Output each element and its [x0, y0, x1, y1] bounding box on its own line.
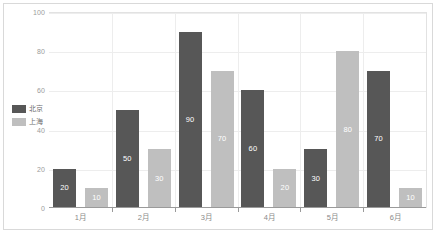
bar[interactable]: 70: [211, 71, 234, 208]
x-axis-tick-label: 5月: [301, 211, 364, 225]
bars-layer: 201050309070602030807010: [49, 13, 426, 208]
bar-group: 7010: [363, 13, 426, 208]
x-axis-tick-label: 4月: [238, 211, 301, 225]
bar[interactable]: 30: [304, 149, 327, 208]
chart-legend: 北京上海: [12, 104, 48, 130]
bar-value-label: 50: [123, 155, 132, 163]
bar[interactable]: 10: [399, 188, 422, 208]
bar-value-label: 30: [155, 175, 164, 183]
bar-value-label: 80: [343, 126, 352, 134]
bar-value-label: 10: [92, 194, 101, 202]
x-axis-tick-label: 1月: [49, 211, 112, 225]
y-axis-tick-label: 100: [7, 9, 45, 16]
bar-value-label: 70: [374, 136, 383, 144]
y-axis-tick-label: 80: [7, 48, 45, 55]
x-axis-tick-label: 3月: [175, 211, 238, 225]
bar[interactable]: 20: [53, 169, 76, 208]
bar-value-label: 20: [281, 185, 290, 193]
bar-value-label: 90: [186, 116, 195, 124]
bar[interactable]: 70: [367, 71, 390, 208]
bar-value-label: 30: [311, 175, 320, 183]
legend-swatch: [12, 118, 26, 126]
bar[interactable]: 60: [241, 90, 264, 208]
bar[interactable]: 80: [336, 51, 359, 208]
bar[interactable]: 30: [148, 149, 171, 208]
legend-label: 上海: [29, 117, 43, 126]
bar-group: 3080: [300, 13, 363, 208]
y-axis-tick-label: 60: [7, 87, 45, 94]
x-axis-tick-label: 6月: [364, 211, 427, 225]
bar[interactable]: 90: [179, 32, 202, 208]
bar-value-label: 20: [60, 185, 69, 193]
chart-container: 020406080100 北京上海 2010503090706020308070…: [3, 3, 433, 230]
y-axis-tick-label: 0: [7, 205, 45, 212]
bar[interactable]: 20: [273, 169, 296, 208]
legend-item[interactable]: 上海: [12, 117, 48, 126]
bar-group: 6020: [237, 13, 300, 208]
bar-group: 5030: [112, 13, 175, 208]
bar-group: 9070: [175, 13, 238, 208]
plot-area: 201050309070602030807010: [49, 12, 427, 208]
bar-value-label: 70: [218, 136, 227, 144]
bar-group: 2010: [49, 13, 112, 208]
y-axis-tick-label: 20: [7, 165, 45, 172]
legend-swatch: [12, 105, 26, 113]
bar-value-label: 60: [249, 145, 258, 153]
x-axis-tick-label: 2月: [112, 211, 175, 225]
bar[interactable]: 10: [85, 188, 108, 208]
legend-item[interactable]: 北京: [12, 104, 48, 113]
bar-value-label: 10: [406, 194, 415, 202]
bar[interactable]: 50: [116, 110, 139, 208]
legend-label: 北京: [29, 104, 43, 113]
x-axis: 1月2月3月4月5月6月: [49, 211, 427, 225]
